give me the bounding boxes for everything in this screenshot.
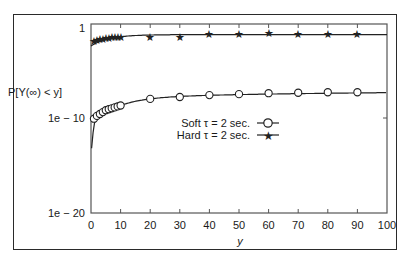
soft-data-point (147, 95, 154, 102)
hard-data-point: ★ (204, 28, 214, 40)
hard-data-point: ★ (293, 28, 303, 40)
hard-data-point: ★ (264, 27, 274, 39)
soft-data-point (235, 91, 242, 98)
y-tick-label: 1e − 20 (48, 207, 85, 219)
x-tick-label: 100 (378, 219, 396, 231)
hard-data-point: ★ (145, 31, 155, 43)
x-tick-label: 90 (351, 219, 363, 231)
x-axis-label: y (236, 235, 244, 247)
circle-marker-icon (264, 119, 272, 127)
data-points: ★★★★★★★★★★★★★★★★★★ (89, 27, 362, 123)
x-tick-label: 0 (88, 219, 94, 231)
x-tick-label: 70 (292, 219, 304, 231)
soft-data-point (265, 90, 272, 97)
star-marker-icon: ★ (263, 129, 274, 143)
hard-data-point: ★ (116, 31, 126, 43)
soft-data-point (354, 89, 361, 96)
hard-data-point: ★ (234, 28, 244, 40)
x-tick-label: 60 (262, 219, 274, 231)
soft-data-point (324, 89, 331, 96)
hard-data-point: ★ (323, 28, 333, 40)
x-tick-label: 30 (174, 219, 186, 231)
soft-data-point (206, 91, 213, 98)
x-tick-label: 20 (144, 219, 156, 231)
y-tick-label: 1e − 10 (48, 112, 85, 124)
x-tick-label: 10 (114, 219, 126, 231)
x-tick-label: 40 (203, 219, 215, 231)
y-axis-label: P[Y(∞) < y] (8, 86, 62, 98)
hard-data-point: ★ (352, 28, 362, 40)
legend-soft-label: Soft τ = 2 sec. (181, 117, 250, 129)
chart-svg: 0102030405060708090100 11e − 101e − 20 P… (0, 0, 408, 263)
legend-hard-label: Hard τ = 2 sec. (177, 129, 250, 141)
soft-data-point (295, 89, 302, 96)
soft-data-point (176, 93, 183, 100)
y-tick-label: 1 (79, 22, 85, 34)
x-tick-label: 50 (233, 219, 245, 231)
legend: Soft τ = 2 sec. Hard τ = 2 sec. ★ (177, 117, 279, 143)
x-tick-label: 80 (322, 219, 334, 231)
soft-data-point (117, 102, 124, 109)
hard-data-point: ★ (175, 31, 185, 43)
